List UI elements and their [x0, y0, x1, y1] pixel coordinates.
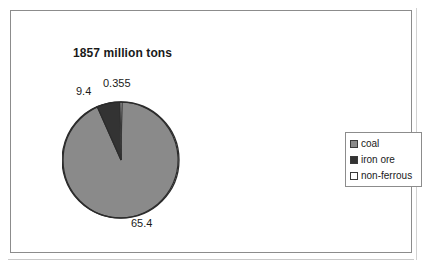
data-label-iron-ore: 9.4 [76, 85, 91, 97]
chart-frame: 1857 million tons 9.4 0.355 65.4 coal [10, 10, 412, 253]
data-label-non-ferrous: 0.355 [103, 77, 131, 89]
pie-svg [62, 101, 180, 219]
legend-item-coal[interactable]: coal [350, 136, 418, 152]
chart-canvas: 1857 million tons 9.4 0.355 65.4 coal [0, 0, 422, 267]
legend-item-non-ferrous[interactable]: non-ferrous [350, 168, 418, 184]
pie-chart [62, 101, 180, 219]
legend-swatch-iron-ore [350, 156, 358, 164]
page-title: 1857 million tons [73, 46, 172, 60]
legend-label-iron-ore: iron ore [361, 155, 395, 165]
legend-item-iron-ore[interactable]: iron ore [350, 152, 418, 168]
legend-label-non-ferrous: non-ferrous [361, 171, 412, 181]
legend-swatch-coal [350, 140, 358, 148]
legend-label-coal: coal [361, 139, 379, 149]
legend-swatch-non-ferrous [350, 172, 358, 180]
chart-legend: coal iron ore non-ferrous [345, 132, 422, 187]
data-label-coal: 65.4 [131, 217, 152, 229]
scan-edge-shadow-bottom [8, 259, 414, 260]
